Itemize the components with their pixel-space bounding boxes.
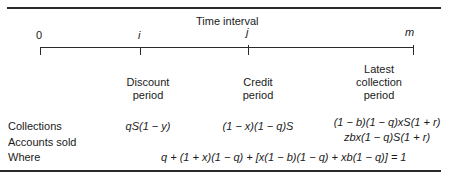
tick-i: [140, 47, 141, 55]
timeline-point-j: j: [246, 26, 248, 39]
tick-m: [413, 45, 414, 55]
collections-label: Collections: [8, 120, 62, 133]
accounts-sold-latest-value: zbx(1 − q)S(1 + r): [344, 131, 430, 144]
discount-period-label: Discount period: [127, 76, 170, 102]
top-rule: [7, 7, 441, 9]
collections-credit-value: (1 − x)(1 − q)S: [223, 120, 294, 133]
time-interval-title: Time interval: [196, 15, 259, 28]
timeline-point-0: 0: [36, 29, 42, 42]
accounts-sold-label: Accounts sold: [8, 136, 76, 149]
latest-collection-period-label: Latest collection period: [356, 63, 402, 102]
bottom-rule: [0, 170, 441, 172]
timeline-point-m: m: [405, 26, 414, 39]
collections-latest-value: (1 − b)(1 − q)xS(1 + r): [334, 116, 441, 129]
where-label: Where: [8, 151, 40, 164]
timeline-point-i: i: [138, 29, 140, 42]
where-equation: q + (1 + x)(1 − q) + [x(1 − b)(1 − q) + …: [161, 151, 406, 164]
collections-discount-value: qS(1 − y): [126, 120, 171, 133]
tick-j: [248, 45, 249, 55]
timeline-axis: [40, 47, 413, 48]
tick-0: [40, 47, 41, 55]
credit-period-label: Credit period: [243, 76, 274, 102]
